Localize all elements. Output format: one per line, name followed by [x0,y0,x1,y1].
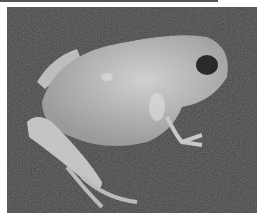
frog-eye [196,55,218,75]
frog-illustration [7,7,257,213]
top-border-line [0,0,218,2]
frog-photo [7,7,257,213]
